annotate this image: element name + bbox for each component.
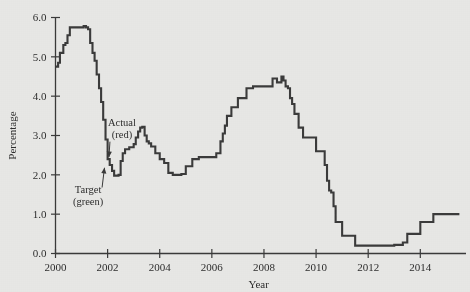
y-tick-label: 4.0	[33, 90, 47, 102]
y-axis-tick-labels: 0.01.02.03.04.05.06.0	[33, 11, 47, 259]
x-tick-label: 2008	[253, 261, 276, 273]
y-axis-title: Percentage	[6, 111, 18, 159]
y-tick-label: 0.0	[33, 247, 47, 259]
x-tick-label: 2012	[357, 261, 379, 273]
interest-rate-line-chart: 0.01.02.03.04.05.06.0 200020022004200620…	[0, 0, 470, 292]
x-tick-label: 2004	[149, 261, 172, 273]
x-axis-title: Year	[249, 278, 270, 290]
annotation-target-arrowhead	[101, 168, 106, 174]
y-tick-label: 1.0	[33, 208, 47, 220]
annotation-actual-line1: (red)	[112, 129, 133, 141]
chart-annotations-group: Actual(red)Target(green)	[73, 117, 136, 208]
x-tick-label: 2014	[409, 261, 432, 273]
x-tick-label: 2000	[45, 261, 68, 273]
y-tick-label: 5.0	[33, 51, 47, 63]
chart-axes: 0.01.02.03.04.05.06.0 200020022004200620…	[33, 11, 466, 272]
y-tick-label: 2.0	[33, 169, 47, 181]
x-axis-tick-labels: 20002002200420062008201020122014	[45, 261, 432, 273]
y-tick-label: 6.0	[33, 11, 47, 23]
annotation-target-line0: Target	[75, 184, 102, 195]
y-tick-label: 3.0	[33, 129, 47, 141]
x-tick-label: 2010	[305, 261, 328, 273]
annotation-target-line1: (green)	[73, 196, 104, 208]
chart-figure: 0.01.02.03.04.05.06.0 200020022004200620…	[0, 0, 470, 292]
x-tick-label: 2006	[201, 261, 224, 273]
x-tick-label: 2002	[97, 261, 119, 273]
annotation-actual-line0: Actual	[108, 117, 136, 128]
